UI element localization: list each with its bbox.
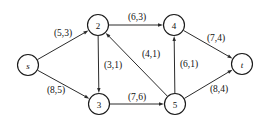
- edge-5-to-4: [173, 36, 176, 93]
- edge-label-2-3: (3,1): [104, 60, 122, 71]
- arrow-head-icon: [227, 70, 232, 74]
- arrow-head-icon: [158, 23, 163, 26]
- node-4: 4: [164, 15, 185, 36]
- edge-label-5-2: (4,1): [142, 49, 160, 60]
- edge-2-to-3: [97, 36, 100, 93]
- arrow-head-icon: [97, 88, 100, 93]
- edge-label-3-5: (7,6): [128, 92, 146, 103]
- arrow-head-icon: [173, 36, 176, 41]
- edge-label-2-4: (6,3): [128, 12, 146, 23]
- node-2: 2: [88, 15, 109, 36]
- arrow-head-icon: [227, 55, 232, 59]
- edge-label-s-2: (5,3): [54, 28, 72, 39]
- edge-label-4-t: (7,4): [207, 33, 225, 44]
- edge-3-to-5: [110, 102, 164, 105]
- arrow-head-icon: [159, 102, 164, 105]
- edge-label-5-t: (8,4): [210, 84, 228, 95]
- node-t: t: [232, 54, 253, 75]
- arrow-head-icon: [84, 95, 89, 99]
- graph-canvas: s2345t (5,3)(8,5)(6,3)(3,1)(4,1)(7,6)(6,…: [0, 0, 267, 126]
- node-label-3: 3: [97, 100, 102, 110]
- arrow-head-icon: [83, 30, 88, 34]
- node-label-4: 4: [172, 21, 177, 31]
- node-s: s: [18, 55, 39, 76]
- node-label-s: s: [26, 61, 30, 71]
- node-label-2: 2: [96, 21, 101, 31]
- node-3: 3: [89, 94, 110, 115]
- node-5: 5: [165, 94, 186, 115]
- node-label-5: 5: [173, 100, 178, 110]
- edge-labels-layer: (5,3)(8,5)(6,3)(3,1)(4,1)(7,6)(6,1)(7,4)…: [47, 12, 228, 103]
- edge-label-5-4: (6,1): [180, 59, 198, 70]
- edge-label-s-3: (8,5): [47, 85, 65, 96]
- graph-figure: s2345t (5,3)(8,5)(6,3)(3,1)(4,1)(7,6)(6,…: [0, 0, 267, 126]
- edge-2-to-4: [109, 23, 163, 26]
